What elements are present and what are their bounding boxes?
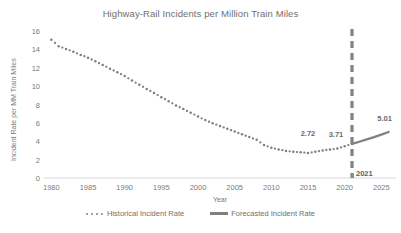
data-point: [157, 94, 159, 96]
data-point: [285, 150, 288, 153]
data-point: [189, 112, 192, 115]
data-point: [208, 121, 210, 123]
data-point: [325, 149, 327, 151]
data-point: [259, 141, 261, 143]
data-point: [307, 152, 310, 155]
data-point: [79, 54, 82, 57]
data-point: [223, 126, 225, 128]
data-label: 5.01: [377, 114, 392, 123]
data-point: [113, 69, 115, 71]
data-point: [336, 147, 339, 150]
data-point: [76, 52, 78, 54]
data-point: [182, 108, 185, 111]
data-point: [83, 55, 85, 57]
data-point: [248, 136, 251, 139]
solid-line-marker-icon: [210, 212, 228, 215]
data-point: [201, 117, 203, 119]
data-point: [167, 100, 170, 103]
data-point: [87, 56, 90, 59]
data-point: [237, 132, 239, 134]
data-point: [98, 62, 100, 64]
data-point: [333, 148, 335, 150]
data-point: [277, 148, 280, 151]
data-point: [204, 119, 207, 122]
data-point: [69, 49, 71, 51]
data-point: [329, 148, 332, 151]
data-point: [145, 88, 148, 91]
legend-item-historical[interactable]: Historical Incident Rate: [86, 209, 184, 218]
data-point: [289, 150, 291, 152]
data-point: [164, 98, 166, 100]
data-point: [347, 144, 349, 146]
data-point: [61, 46, 63, 48]
data-point: [91, 58, 93, 60]
legend-item-forecast[interactable]: Forecasted Incident Rate: [210, 209, 315, 218]
chart-container: Highway-Rail Incidents per Million Train…: [0, 0, 401, 233]
data-point: [54, 42, 56, 44]
data-point: [252, 137, 254, 139]
data-point: [142, 86, 144, 88]
data-point: [230, 129, 232, 131]
data-point: [270, 146, 273, 149]
data-point: [109, 67, 112, 70]
data-point: [131, 79, 134, 82]
data-point: [72, 50, 75, 53]
data-point: [94, 60, 97, 63]
chart-legend: Historical Incident Rate Forecasted Inci…: [0, 209, 401, 218]
data-point: [245, 135, 247, 137]
data-point: [314, 151, 317, 154]
data-point: [233, 130, 236, 133]
series-forecast: [352, 132, 389, 144]
data-point: [267, 145, 269, 147]
data-point: [340, 146, 342, 148]
data-point: [123, 75, 126, 78]
data-point: [303, 151, 305, 153]
data-point: [274, 147, 276, 149]
data-point: [292, 151, 295, 154]
data-point: [101, 64, 104, 67]
legend-label-historical: Historical Incident Rate: [107, 209, 184, 218]
data-point: [120, 73, 122, 75]
dotted-marker-icon: [86, 210, 104, 217]
data-point: [211, 122, 214, 125]
data-point: [171, 102, 173, 104]
data-point: [219, 125, 222, 128]
marker-2021-icon: [351, 174, 354, 178]
data-point: [197, 115, 200, 118]
data-label: 3.71: [329, 130, 344, 139]
data-point: [311, 151, 313, 153]
data-point: [135, 82, 137, 84]
data-point: [226, 128, 229, 131]
data-point: [241, 133, 244, 136]
data-point: [318, 150, 320, 152]
data-point: [255, 139, 258, 142]
data-label: 2.72: [301, 129, 316, 138]
data-point: [175, 104, 178, 107]
data-point: [153, 92, 156, 95]
data-point: [65, 48, 68, 51]
data-point: [105, 66, 107, 68]
data-point: [57, 45, 60, 48]
x-axis-title: Year: [44, 196, 396, 203]
annotation-2021-label: 2021: [356, 169, 373, 178]
data-point: [321, 149, 324, 152]
data-point: [127, 77, 129, 79]
data-point: [215, 124, 217, 126]
data-point: [50, 38, 53, 41]
data-point: [160, 96, 163, 99]
legend-label-forecast: Forecasted Incident Rate: [231, 209, 315, 218]
data-point: [281, 149, 283, 151]
data-point: [149, 90, 151, 92]
data-point: [263, 144, 266, 147]
data-point: [116, 71, 119, 74]
data-point: [186, 110, 188, 112]
data-point: [296, 151, 298, 153]
data-point: [179, 106, 181, 108]
data-point: [193, 113, 195, 115]
data-point: [299, 151, 302, 154]
data-point: [343, 145, 346, 148]
data-point: [138, 84, 141, 87]
